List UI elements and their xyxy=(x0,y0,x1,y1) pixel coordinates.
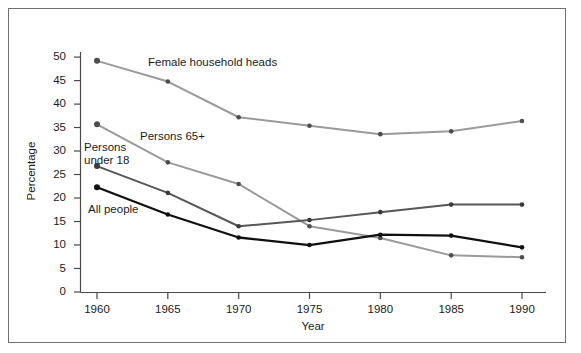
y-tick-label-40: 40 xyxy=(32,97,66,109)
data-point xyxy=(520,255,525,260)
y-tick-label-5: 5 xyxy=(32,262,66,274)
data-point xyxy=(449,253,454,258)
data-point xyxy=(378,132,383,137)
series-label-persons-65-plus: Persons 65+ xyxy=(140,130,205,143)
series-label-persons-under-18-line2: under 18 xyxy=(84,154,129,167)
data-point xyxy=(94,121,100,127)
x-tick-label-1990: 1990 xyxy=(497,303,547,315)
data-point xyxy=(378,232,383,237)
data-point xyxy=(307,243,312,248)
series-line-female-household-heads xyxy=(97,61,522,134)
data-point xyxy=(166,160,171,165)
data-point xyxy=(236,182,241,187)
x-tick-marks xyxy=(97,293,522,300)
data-point xyxy=(520,245,525,250)
y-tick-label-15: 15 xyxy=(32,215,66,227)
y-tick-label-10: 10 xyxy=(32,238,66,250)
data-point xyxy=(449,129,454,134)
data-point xyxy=(520,119,525,124)
series-label-female-household-heads: Female household heads xyxy=(148,56,277,69)
data-point xyxy=(236,115,241,120)
x-tick-label-1980: 1980 xyxy=(355,303,405,315)
data-series-layer xyxy=(94,58,524,260)
y-tick-label-50: 50 xyxy=(32,50,66,62)
x-tick-label-1985: 1985 xyxy=(426,303,476,315)
data-point xyxy=(166,79,171,84)
x-tick-label-1960: 1960 xyxy=(72,303,122,315)
data-point xyxy=(94,58,100,64)
y-tick-label-35: 35 xyxy=(32,121,66,133)
data-point xyxy=(94,184,100,190)
data-point xyxy=(166,212,171,217)
data-point xyxy=(236,235,241,240)
y-axis-title: Percentage xyxy=(25,131,37,211)
y-tick-label-25: 25 xyxy=(32,168,66,180)
data-point xyxy=(307,218,312,223)
series-line-all-people xyxy=(97,187,522,247)
chart-figure: 50 45 40 35 30 25 20 15 10 5 0 1960 1965… xyxy=(0,0,581,353)
series-line-persons-under-18 xyxy=(97,166,522,226)
y-tick-label-20: 20 xyxy=(32,191,66,203)
series-label-persons-under-18-line1: Persons xyxy=(84,141,126,154)
y-tick-label-0: 0 xyxy=(32,285,66,297)
data-point xyxy=(236,224,241,229)
data-point xyxy=(449,202,454,207)
data-point xyxy=(307,224,312,229)
data-point xyxy=(520,202,525,207)
chart-plot-area xyxy=(0,0,581,353)
y-tick-label-30: 30 xyxy=(32,144,66,156)
data-point xyxy=(378,210,383,215)
y-tick-marks xyxy=(74,57,81,292)
x-tick-label-1975: 1975 xyxy=(285,303,335,315)
series-label-all-people: All people xyxy=(88,203,139,216)
data-point xyxy=(307,123,312,128)
data-point xyxy=(166,191,171,196)
x-axis-title: Year xyxy=(288,320,338,332)
x-tick-label-1970: 1970 xyxy=(214,303,264,315)
y-tick-label-45: 45 xyxy=(32,74,66,86)
data-point xyxy=(449,233,454,238)
x-tick-label-1965: 1965 xyxy=(143,303,193,315)
